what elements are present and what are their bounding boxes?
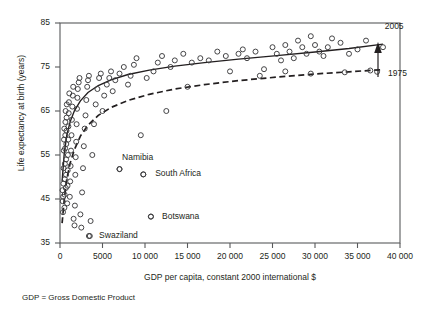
data-point: [117, 71, 122, 76]
data-point: [68, 179, 73, 184]
data-point: [347, 51, 352, 56]
point-label-botswana: Botswana: [162, 211, 199, 221]
y-tick-label-85: 85: [24, 17, 50, 27]
data-point: [83, 113, 88, 118]
data-point-namibia: [117, 167, 122, 172]
data-point: [73, 155, 78, 160]
data-point: [296, 38, 301, 43]
y-tick-label-45: 45: [24, 193, 50, 203]
data-point: [126, 82, 131, 87]
data-point: [283, 43, 288, 48]
data-point: [121, 65, 126, 70]
data-point: [107, 76, 112, 81]
data-point: [164, 109, 169, 114]
data-series: [60, 34, 386, 239]
data-point: [85, 84, 90, 89]
data-point-botswana: [148, 214, 153, 219]
data-point: [144, 76, 149, 81]
y-tick-label-75: 75: [24, 61, 50, 71]
data-point: [364, 38, 369, 43]
data-point: [155, 60, 160, 65]
data-point: [279, 58, 284, 63]
data-point: [240, 47, 245, 52]
data-point: [98, 71, 103, 76]
curve-label-2005: 2005: [385, 21, 404, 31]
data-point: [228, 69, 233, 74]
figure: Life expectancy at birth (years) GDP per…: [0, 0, 429, 312]
data-point: [104, 82, 109, 87]
point-label-namibia: Namibia: [122, 152, 153, 162]
data-point: [109, 69, 114, 74]
data-point: [223, 54, 228, 59]
data-point: [283, 69, 288, 74]
data-point: [236, 51, 241, 56]
data-point: [72, 203, 77, 208]
x-axis-title: GDP per capita, constant 2000 internatio…: [60, 272, 400, 282]
data-point: [93, 102, 98, 107]
data-point: [69, 133, 74, 138]
data-point: [75, 95, 80, 100]
y-tick-label-65: 65: [24, 105, 50, 115]
data-point: [270, 45, 275, 50]
data-point: [381, 45, 386, 50]
data-point: [138, 133, 143, 138]
data-point-south-africa: [141, 172, 146, 177]
chart-canvas: [0, 0, 429, 312]
data-point: [92, 122, 97, 127]
data-point: [72, 223, 77, 228]
data-point: [134, 56, 139, 61]
data-point: [90, 153, 95, 158]
data-point: [81, 144, 86, 149]
point-label-swaziland: Swaziland: [99, 230, 138, 240]
y-tick-label-35: 35: [24, 237, 50, 247]
data-point: [313, 43, 318, 48]
data-point: [88, 219, 93, 224]
data-point: [84, 98, 89, 103]
data-point: [330, 36, 335, 41]
data-point: [304, 51, 309, 56]
data-point: [110, 89, 115, 94]
curve-label-1975: 1975: [388, 68, 407, 78]
data-point: [95, 87, 100, 92]
data-point: [172, 58, 177, 63]
data-point: [79, 225, 84, 230]
data-point: [198, 56, 203, 61]
data-point: [308, 34, 313, 39]
data-point: [287, 49, 292, 54]
data-point: [70, 104, 75, 109]
data-point: [291, 56, 296, 61]
data-point: [253, 49, 258, 54]
data-point: [73, 172, 78, 177]
data-point: [215, 49, 220, 54]
data-point: [160, 54, 165, 59]
data-point: [69, 148, 74, 153]
axis-ticks: [55, 23, 400, 248]
data-point: [325, 45, 330, 50]
chart-footnote: GDP = Gross Domestic Product: [22, 293, 135, 302]
data-point: [257, 73, 262, 78]
data-point: [338, 40, 343, 45]
data-point: [75, 87, 80, 92]
data-point: [78, 212, 83, 217]
data-point: [131, 62, 136, 67]
data-point: [102, 93, 107, 98]
point-label-south-africa: South Africa: [155, 168, 201, 178]
data-point: [74, 122, 79, 127]
data-point: [262, 67, 267, 72]
data-point: [300, 45, 305, 50]
data-point: [181, 51, 186, 56]
x-tick-label-40000: 40 000: [373, 251, 427, 261]
data-point: [71, 216, 76, 221]
data-point: [65, 201, 70, 206]
data-point: [67, 194, 72, 199]
data-point: [80, 190, 85, 195]
y-tick-label-55: 55: [24, 149, 50, 159]
data-point: [321, 54, 326, 59]
series-line-0: [62, 44, 383, 181]
data-point: [81, 166, 86, 171]
